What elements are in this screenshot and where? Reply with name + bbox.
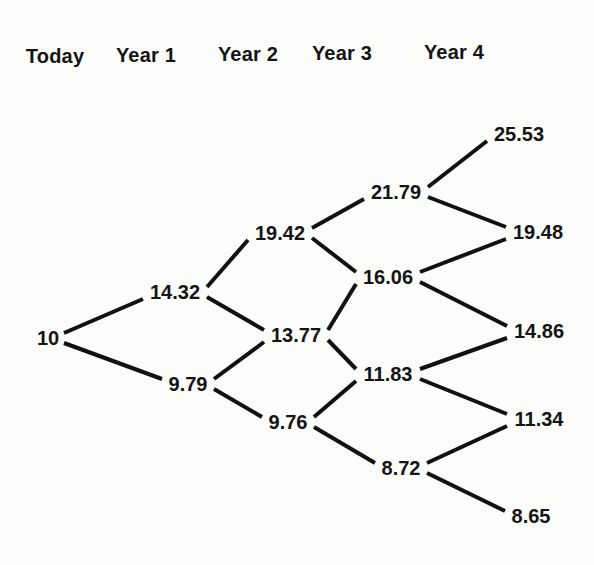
tree-edge-n3b-n4c <box>420 282 507 326</box>
tree-edge-n1d-n2m <box>214 342 264 379</box>
column-header-year-1: Year 1 <box>116 44 176 67</box>
tree-node-value-21-79: 21.79 <box>371 181 421 204</box>
tree-node-value-19-42: 19.42 <box>255 222 305 245</box>
column-header-year-4: Year 4 <box>424 41 484 64</box>
tree-node-value-9-76: 9.76 <box>269 411 308 434</box>
tree-edge-t0-n1u <box>64 299 143 333</box>
column-header-today: Today <box>26 45 84 68</box>
tree-node-value-8-72: 8.72 <box>382 457 421 480</box>
binomial-tree-figure: TodayYear 1Year 2Year 3Year 4 1014.329.7… <box>0 0 594 565</box>
tree-edge-n3a-n4b <box>428 197 506 227</box>
tree-edge-n1u-n2m <box>207 297 264 330</box>
tree-node-value-9-79: 9.79 <box>169 373 208 396</box>
column-header-year-3: Year 3 <box>312 42 372 65</box>
column-header-year-2: Year 2 <box>218 43 278 66</box>
tree-edge-n2d-n3d <box>314 427 375 463</box>
tree-node-value-11-34: 11.34 <box>515 408 564 431</box>
tree-edge-n1d-n2d <box>214 389 262 417</box>
tree-edge-n2m-n3c <box>328 340 356 369</box>
tree-edge-n2u-n3a <box>312 199 364 228</box>
tree-node-value-13-77: 13.77 <box>271 324 321 347</box>
tree-node-value-8-65: 8.65 <box>512 505 551 528</box>
tree-edge-n3c-n4c <box>420 338 507 369</box>
tree-node-value-25-53: 25.53 <box>494 123 544 146</box>
tree-node-value-16-06: 16.06 <box>363 266 413 289</box>
tree-edge-n3a-n4a <box>428 141 487 187</box>
tree-node-value-14-32: 14.32 <box>150 281 200 304</box>
tree-node-value-10: 10 <box>37 327 59 350</box>
tree-edge-n2d-n3c <box>314 381 356 417</box>
tree-edge-n3d-n4d <box>427 426 507 463</box>
tree-edge-n2m-n3b <box>328 284 356 330</box>
tree-node-value-19-48: 19.48 <box>513 221 563 244</box>
tree-node-value-11-83: 11.83 <box>364 363 413 386</box>
tree-edge-n1u-n2u <box>207 240 248 287</box>
tree-edge-n2u-n3b <box>312 238 356 272</box>
tree-edge-n3c-n4d <box>420 379 507 414</box>
tree-edge-n3d-n4e <box>427 473 505 511</box>
tree-edge-t0-n1d <box>64 343 162 379</box>
tree-edges-layer <box>0 0 594 565</box>
tree-node-value-14-86: 14.86 <box>514 320 564 343</box>
tree-edge-n3b-n4b <box>420 239 506 272</box>
